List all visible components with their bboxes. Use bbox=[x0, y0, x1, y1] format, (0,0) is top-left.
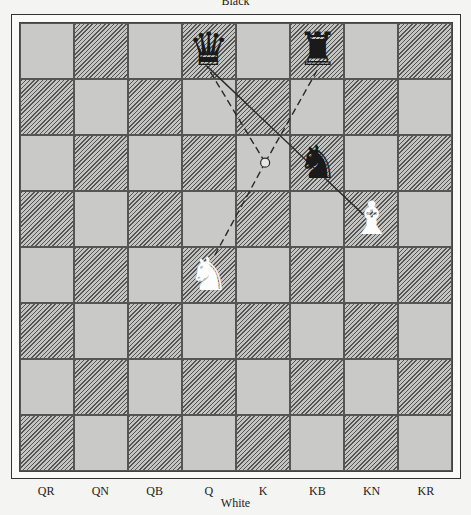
square-q-row7 bbox=[182, 415, 236, 471]
square-qn-row0 bbox=[74, 23, 128, 79]
square-qn-row7 bbox=[74, 415, 128, 471]
square-qr-row0 bbox=[20, 23, 74, 79]
square-kr-row4 bbox=[398, 247, 452, 303]
square-qr-row6 bbox=[20, 359, 74, 415]
square-qn-row3 bbox=[74, 191, 128, 247]
square-qn-row5 bbox=[74, 303, 128, 359]
square-kr-row5 bbox=[398, 303, 452, 359]
square-k-row3 bbox=[236, 191, 290, 247]
square-qr-row5 bbox=[20, 303, 74, 359]
square-qn-row4 bbox=[74, 247, 128, 303]
square-k-row2 bbox=[236, 135, 290, 191]
square-kb-row6 bbox=[290, 359, 344, 415]
square-kn-row5 bbox=[344, 303, 398, 359]
square-kr-row3 bbox=[398, 191, 452, 247]
square-kn-row1 bbox=[344, 79, 398, 135]
square-kn-row6 bbox=[344, 359, 398, 415]
square-kb-row7 bbox=[290, 415, 344, 471]
black-queen-icon: ♛ bbox=[182, 22, 236, 78]
square-kr-row6 bbox=[398, 359, 452, 415]
square-kb-row4 bbox=[290, 247, 344, 303]
square-q-row5 bbox=[182, 303, 236, 359]
square-qb-row6 bbox=[128, 359, 182, 415]
square-q-row2 bbox=[182, 135, 236, 191]
square-kn-row2 bbox=[344, 135, 398, 191]
square-k-row5 bbox=[236, 303, 290, 359]
square-kn-row4 bbox=[344, 247, 398, 303]
square-kr-row2 bbox=[398, 135, 452, 191]
square-kb-row1 bbox=[290, 79, 344, 135]
square-kr-row0 bbox=[398, 23, 452, 79]
black-knight-icon: ♞ bbox=[290, 135, 344, 191]
square-qr-row7 bbox=[20, 415, 74, 471]
square-qr-row3 bbox=[20, 191, 74, 247]
square-q-row6 bbox=[182, 359, 236, 415]
square-kn-row7 bbox=[344, 415, 398, 471]
square-qn-row6 bbox=[74, 359, 128, 415]
chess-board bbox=[19, 22, 453, 472]
white-knight-icon: ♞ bbox=[182, 247, 236, 303]
square-kn-row0 bbox=[344, 23, 398, 79]
square-kr-row1 bbox=[398, 79, 452, 135]
square-qb-row4 bbox=[128, 247, 182, 303]
square-qb-row5 bbox=[128, 303, 182, 359]
square-qb-row7 bbox=[128, 415, 182, 471]
white-side-label: White bbox=[0, 496, 471, 511]
square-qr-row1 bbox=[20, 79, 74, 135]
black-rook-icon: ♜ bbox=[290, 22, 344, 78]
square-qb-row1 bbox=[128, 79, 182, 135]
square-qb-row3 bbox=[128, 191, 182, 247]
square-k-row0 bbox=[236, 23, 290, 79]
black-side-label: Black bbox=[0, 0, 471, 9]
square-k-row4 bbox=[236, 247, 290, 303]
square-k-row6 bbox=[236, 359, 290, 415]
square-qn-row2 bbox=[74, 135, 128, 191]
square-k-row7 bbox=[236, 415, 290, 471]
square-kr-row7 bbox=[398, 415, 452, 471]
white-bishop-icon: ♝ bbox=[345, 191, 399, 247]
square-q-row3 bbox=[182, 191, 236, 247]
square-qb-row0 bbox=[128, 23, 182, 79]
square-qr-row2 bbox=[20, 135, 74, 191]
square-qn-row1 bbox=[74, 79, 128, 135]
square-qb-row2 bbox=[128, 135, 182, 191]
square-kb-row5 bbox=[290, 303, 344, 359]
square-q-row1 bbox=[182, 79, 236, 135]
square-kb-row3 bbox=[290, 191, 344, 247]
square-qr-row4 bbox=[20, 247, 74, 303]
square-k-row1 bbox=[236, 79, 290, 135]
